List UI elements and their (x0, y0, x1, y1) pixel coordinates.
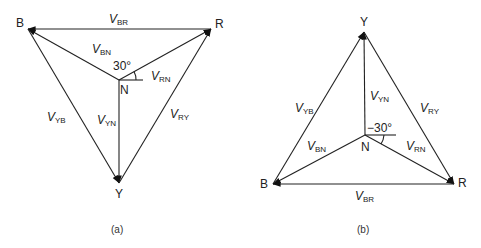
node-label-y-b: Y (360, 15, 368, 29)
label-v-bn-b: VBN (307, 139, 326, 154)
vector-v-yn-b (364, 32, 365, 135)
angle-arc-a (134, 72, 136, 81)
label-v-yb-a: VYB (47, 110, 66, 125)
node-label-b-a: B (16, 16, 24, 30)
panel-b: Y B R N −30° VYB VYN VRY VBN VRN VBR (b) (260, 15, 467, 235)
label-v-yb-b: VYB (295, 101, 314, 116)
label-v-rn-a: VRN (151, 69, 171, 84)
label-v-ry-b: VRY (420, 101, 440, 116)
node-label-n-a: N (120, 83, 129, 97)
label-v-ry-a: VRY (170, 107, 190, 122)
vector-v-ry-b (364, 32, 454, 184)
vector-v-rn-a (119, 29, 211, 80)
angle-arc-b (381, 135, 384, 144)
label-v-rn-b: VRN (406, 139, 426, 154)
phasor-diagrams: B R Y N 30° VBR VBN VRN VYN VYB VRY (a) … (0, 0, 481, 248)
vector-v-ry-a (119, 29, 211, 183)
node-label-r-a: R (215, 17, 224, 31)
node-label-r-b: R (458, 176, 467, 190)
vector-v-yb-b (273, 32, 364, 184)
label-v-yn-b: VYN (370, 89, 389, 104)
caption-b: (b) (357, 224, 369, 235)
label-v-br-b: VBR (355, 189, 374, 204)
node-label-n-b: N (361, 140, 370, 154)
vector-v-bn-b (273, 135, 365, 184)
node-label-y-a: Y (115, 187, 123, 201)
panel-a: B R Y N 30° VBR VBN VRN VYN VYB VRY (a) (16, 12, 224, 235)
label-v-br-a: VBR (109, 12, 128, 27)
label-v-bn-a: VBN (92, 42, 111, 57)
caption-a: (a) (111, 224, 123, 235)
angle-label-b: −30° (367, 121, 392, 135)
angle-label-a: 30° (113, 59, 131, 73)
label-v-yn-a: VYN (97, 113, 116, 128)
node-label-b-b: B (260, 177, 268, 191)
